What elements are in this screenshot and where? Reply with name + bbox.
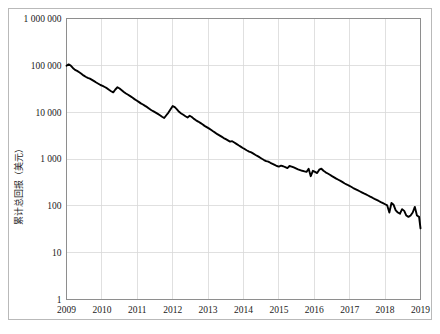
x-tick-label: 2019 [411, 305, 430, 315]
y-axis-tick-labels: 1 000 000100 00010 0001 000100101 [24, 14, 62, 305]
y-axis-title-text: 累计总回报（美元） [13, 144, 24, 225]
x-tick-label: 2010 [92, 305, 111, 315]
y-tick-label: 100 [47, 201, 62, 211]
chart-figure: 1 000 000100 00010 0001 000100101 200920… [0, 0, 440, 334]
y-tick-label: 100 000 [31, 61, 62, 71]
y-tick-label: 1 [57, 295, 62, 305]
x-tick-label: 2015 [269, 305, 288, 315]
x-tick-label: 2018 [376, 305, 395, 315]
y-tick-label: 1 000 [40, 154, 62, 164]
x-tick-label: 2013 [199, 305, 218, 315]
y-tick-label: 10 [52, 248, 62, 258]
x-tick-label: 2009 [57, 305, 76, 315]
line-chart: 1 000 000100 00010 0001 000100101 200920… [0, 0, 440, 334]
x-tick-label: 2012 [163, 305, 182, 315]
x-axis-tick-labels: 2009201020112012201320142015201620172018… [57, 305, 430, 315]
y-tick-label: 10 000 [35, 108, 61, 118]
x-tick-label: 2014 [234, 305, 253, 315]
x-tick-label: 2011 [128, 305, 147, 315]
x-tick-label: 2016 [305, 305, 324, 315]
x-tick-label: 2017 [340, 305, 359, 315]
y-axis-title: 累计总回报（美元） [13, 144, 24, 225]
y-tick-label: 1 000 000 [24, 14, 62, 24]
